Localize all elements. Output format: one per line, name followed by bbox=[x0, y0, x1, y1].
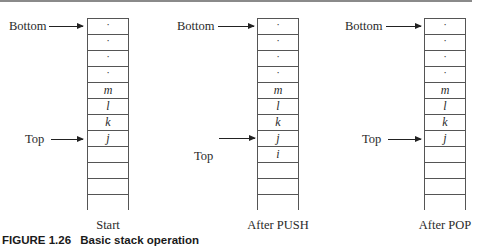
stack-cell: · bbox=[88, 34, 128, 50]
stack-cell: · bbox=[88, 66, 128, 82]
stack-cell: · bbox=[258, 18, 298, 34]
bottom-arrow-icon bbox=[218, 26, 254, 27]
stack-cell bbox=[258, 162, 298, 178]
stack-cell: · bbox=[258, 34, 298, 50]
stack-cell: · bbox=[425, 50, 465, 66]
top-arrow-icon bbox=[219, 138, 255, 139]
stack-caption: After POP bbox=[395, 218, 486, 233]
stack-cell bbox=[425, 162, 465, 178]
stack-cell: m bbox=[88, 82, 128, 98]
bottom-arrow-icon bbox=[386, 26, 421, 27]
stack-cell: j bbox=[425, 130, 465, 146]
stack-cell bbox=[258, 178, 298, 194]
bottom-arrow-icon bbox=[49, 26, 83, 27]
stack-cell bbox=[425, 194, 465, 210]
stack-cell bbox=[258, 194, 298, 210]
stack-column: · · · · m l k j bbox=[87, 18, 129, 210]
stack-cell: · bbox=[88, 18, 128, 34]
stack-cell bbox=[425, 178, 465, 194]
top-arrow-icon bbox=[51, 139, 83, 140]
stack-cell: k bbox=[258, 114, 298, 130]
stack-column: · · · · m l k j i bbox=[257, 18, 299, 210]
stack-cell: m bbox=[425, 82, 465, 98]
stack-cell: · bbox=[258, 50, 298, 66]
stack-cell bbox=[88, 162, 128, 178]
stack-cell: m bbox=[258, 82, 298, 98]
stack-cell: l bbox=[88, 98, 128, 114]
figure-title: Basic stack operation bbox=[80, 234, 199, 246]
top-arrow-icon bbox=[388, 139, 421, 140]
stack-cell: · bbox=[425, 66, 465, 82]
stack-cell bbox=[88, 146, 128, 162]
stack-caption: After PUSH bbox=[228, 218, 328, 233]
stack-column: · · · · m l k j bbox=[424, 18, 466, 210]
figure-number: FIGURE 1.26 bbox=[2, 234, 71, 246]
stack-cell: i bbox=[258, 146, 298, 162]
bottom-label: Bottom bbox=[177, 19, 215, 33]
top-label: Top bbox=[25, 132, 44, 146]
stack-cell: · bbox=[425, 18, 465, 34]
stack-cell: · bbox=[88, 50, 128, 66]
stack-cell: k bbox=[425, 114, 465, 130]
stack-cell: j bbox=[88, 130, 128, 146]
stack-cell: · bbox=[258, 66, 298, 82]
stack-cell: l bbox=[258, 98, 298, 114]
stack-caption: Start bbox=[58, 218, 158, 233]
stack-cell bbox=[425, 146, 465, 162]
stack-cell: k bbox=[88, 114, 128, 130]
stack-cell: · bbox=[425, 34, 465, 50]
top-label: Top bbox=[194, 149, 213, 163]
stack-cell bbox=[88, 194, 128, 210]
top-label: Top bbox=[362, 132, 381, 146]
stack-cell: j bbox=[258, 130, 298, 146]
bottom-label: Bottom bbox=[345, 19, 383, 33]
figure-caption: FIGURE 1.26 Basic stack operation bbox=[2, 234, 199, 246]
stack-cell bbox=[88, 178, 128, 194]
top-rule bbox=[0, 0, 472, 2]
stack-cell: l bbox=[425, 98, 465, 114]
bottom-label: Bottom bbox=[9, 19, 47, 33]
